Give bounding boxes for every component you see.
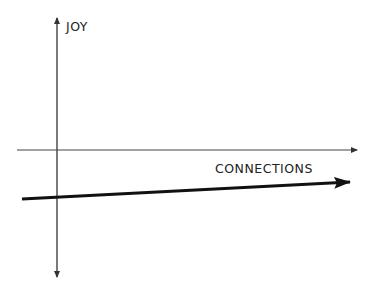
x-axis-label: CONNECTIONS <box>215 161 313 176</box>
y-axis-label: JOY <box>65 19 88 34</box>
trend-arrow <box>22 182 350 199</box>
diagram-canvas: JOY CONNECTIONS <box>0 0 372 299</box>
